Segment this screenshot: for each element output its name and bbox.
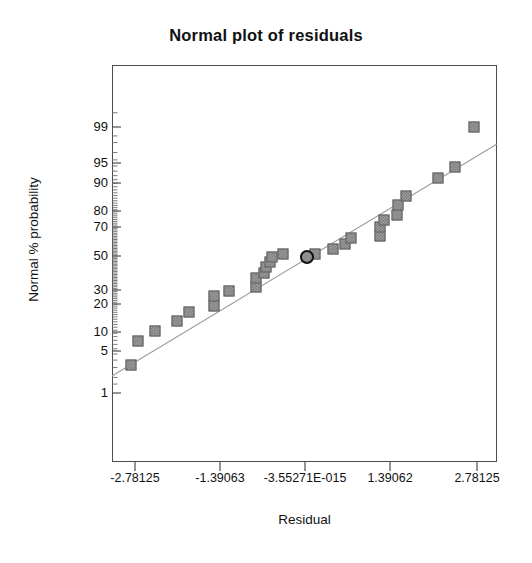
x-axis-tick-labels: -2.78125-1.39063-3.55271E-0151.390622.78… bbox=[0, 471, 532, 493]
x-tick-label: -3.55271E-015 bbox=[264, 471, 347, 485]
y-axis-title: Normal % probability bbox=[26, 145, 41, 335]
data-point[interactable] bbox=[450, 162, 461, 173]
data-point[interactable] bbox=[209, 301, 220, 312]
data-point[interactable] bbox=[401, 191, 412, 202]
data-point[interactable] bbox=[150, 326, 161, 337]
y-tick-label: 20 bbox=[74, 297, 108, 310]
data-point[interactable] bbox=[209, 291, 220, 302]
y-tick-label: 70 bbox=[74, 220, 108, 233]
data-point[interactable] bbox=[267, 252, 278, 263]
data-point[interactable] bbox=[433, 173, 444, 184]
x-axis-title: Residual bbox=[112, 512, 497, 527]
highlighted-data-point[interactable] bbox=[300, 250, 314, 264]
data-point[interactable] bbox=[126, 360, 137, 371]
data-point[interactable] bbox=[278, 249, 289, 260]
data-point[interactable] bbox=[379, 215, 390, 226]
data-points-layer bbox=[112, 65, 497, 462]
y-tick-label: 1 bbox=[74, 386, 108, 399]
y-tick-label: 50 bbox=[74, 249, 108, 262]
x-tick-label: -1.39063 bbox=[195, 471, 244, 485]
x-tick-label: 1.39062 bbox=[367, 471, 412, 485]
x-tick-label: -2.78125 bbox=[110, 471, 159, 485]
data-point[interactable] bbox=[224, 286, 235, 297]
data-point[interactable] bbox=[392, 210, 403, 221]
y-tick-label: 99 bbox=[74, 120, 108, 133]
x-axis-major-ticks bbox=[135, 462, 477, 471]
y-tick-label: 95 bbox=[74, 156, 108, 169]
data-point[interactable] bbox=[172, 316, 183, 327]
data-point[interactable] bbox=[133, 336, 144, 347]
x-tick-label: 2.78125 bbox=[454, 471, 499, 485]
normal-probability-plot: Normal plot of residuals 999590807050302… bbox=[0, 0, 532, 563]
data-point[interactable] bbox=[328, 244, 339, 255]
y-tick-label: 80 bbox=[74, 204, 108, 217]
y-tick-label: 90 bbox=[74, 176, 108, 189]
data-point[interactable] bbox=[469, 122, 480, 133]
y-tick-label: 10 bbox=[74, 325, 108, 338]
y-tick-label: 30 bbox=[74, 283, 108, 296]
data-point[interactable] bbox=[184, 307, 195, 318]
y-tick-label: 5 bbox=[74, 344, 108, 357]
data-point[interactable] bbox=[346, 233, 357, 244]
